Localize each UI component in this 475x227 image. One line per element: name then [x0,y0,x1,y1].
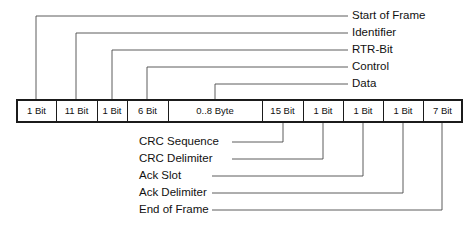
bottom-leader-lines [212,122,442,210]
leader-line-control [147,67,348,100]
top-leader-lines [36,16,348,100]
callout-label-identifier: Identifier [352,26,396,38]
leader-line-ack-delimiter [212,122,403,193]
leader-line-data [215,84,348,100]
frame-segment-label-ack-slot: 1 Bit [353,105,372,116]
frame-segment-label-data: 0..8 Byte [196,105,234,116]
top-callout-labels: Start of FrameIdentifierRTR-BitControlDa… [352,9,426,89]
frame-segment-label-start-of-frame: 1 Bit [27,105,46,116]
bottom-callout-labels: CRC SequenceCRC DelimiterAck SlotAck Del… [139,135,219,215]
frame-segment-label-rtr-bit: 1 Bit [102,105,121,116]
callout-label-ack-delimiter: Ack Delimiter [139,186,207,198]
leader-line-crc-delimiter [232,122,323,159]
callout-label-rtr-bit: RTR-Bit [352,43,393,55]
leader-line-end-of-frame [212,122,442,210]
frame-segment-label-identifier: 11 Bit [65,105,89,116]
leader-line-start-of-frame [36,16,348,100]
diagram-canvas: 1 Bit11 Bit1 Bit6 Bit0..8 Byte15 Bit1 Bi… [0,0,475,227]
frame-segment-label-crc-delimiter: 1 Bit [313,105,332,116]
callout-label-end-of-frame: End of Frame [139,203,209,215]
callout-label-crc-delimiter: CRC Delimiter [139,152,213,164]
leader-line-crc-sequence [232,122,283,142]
callout-label-control: Control [352,60,389,72]
can-frame-diagram: 1 Bit11 Bit1 Bit6 Bit0..8 Byte15 Bit1 Bi… [0,0,475,227]
callout-label-data: Data [352,77,377,89]
leader-line-ack-slot [212,122,363,176]
callout-label-crc-sequence: CRC Sequence [139,135,219,147]
frame-segment-label-end-of-frame: 7 Bit [433,105,452,116]
frame-segment-label-ack-delimiter: 1 Bit [393,105,412,116]
frame-segment-label-control: 6 Bit [138,105,157,116]
callout-label-start-of-frame: Start of Frame [352,9,426,21]
leader-line-identifier [76,33,348,100]
frame-segment-label-crc-sequence: 15 Bit [270,105,295,116]
callout-label-ack-slot: Ack Slot [139,169,182,181]
